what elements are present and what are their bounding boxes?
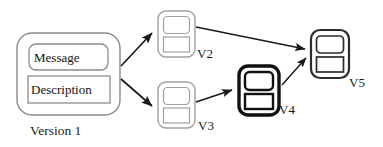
- version-1-label: Version 1: [30, 124, 81, 138]
- v3-label: V3: [198, 119, 214, 132]
- edge-v3-to-v4: [196, 90, 232, 102]
- version-history-diagram: Message Description Version 1 V2 V3 V4 V…: [0, 0, 383, 147]
- v4-label: V4: [279, 103, 295, 116]
- edge-version1-to-v3: [121, 79, 152, 106]
- description-field-label: Description: [31, 83, 92, 96]
- edge-version1-to-v2: [121, 33, 152, 66]
- v2-message-slot: [164, 17, 190, 34]
- v3-message-slot: [164, 88, 190, 105]
- v5-message-slot: [317, 36, 344, 53]
- v3-description-slot: [164, 108, 190, 123]
- edge-v4-to-v5: [282, 58, 306, 85]
- v4-description-slot: [245, 94, 273, 109]
- node-v3[interactable]: [158, 82, 195, 128]
- node-v2[interactable]: [158, 11, 195, 57]
- message-field-label: Message: [34, 51, 80, 64]
- node-version-1[interactable]: [17, 33, 120, 115]
- node-v4[interactable]: [239, 66, 279, 115]
- v4-message-slot: [245, 72, 273, 90]
- v2-description-slot: [164, 37, 190, 52]
- node-v5[interactable]: [311, 30, 349, 78]
- v2-label: V2: [197, 47, 213, 60]
- v5-label: V5: [349, 76, 365, 89]
- v5-description-slot: [317, 57, 344, 72]
